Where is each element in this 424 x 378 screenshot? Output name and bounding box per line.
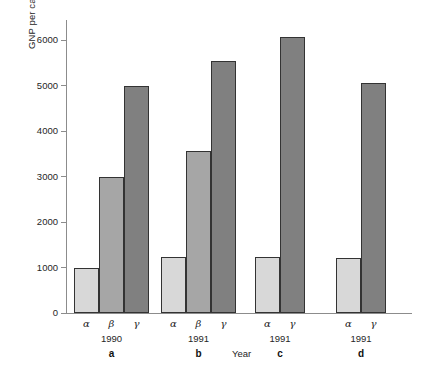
bar[interactable] [211,61,236,313]
bar-chart-figure: GNP per capita (U.S. dollars) 0100020003… [0,0,424,378]
panel-label: a [92,348,132,359]
bar[interactable] [336,258,361,313]
bar[interactable] [361,83,386,313]
category-label: γ [214,318,234,329]
bar[interactable] [99,177,124,313]
panel-label: b [179,348,219,359]
category-label: γ [364,318,384,329]
category-label: γ [127,318,147,329]
category-label: α [339,318,359,329]
year-label: 1991 [255,333,305,344]
category-label: β [189,318,209,329]
year-label: 1991 [336,333,386,344]
category-label: α [258,318,278,329]
category-label: β [102,318,122,329]
panel-label: c [260,348,300,359]
x-axis-title: Year [232,348,251,359]
bar[interactable] [280,37,305,313]
bar[interactable] [186,151,211,313]
bar[interactable] [255,257,280,313]
category-label: α [77,318,97,329]
category-label: γ [283,318,303,329]
category-label: α [164,318,184,329]
plot-area [0,0,424,378]
year-label: 1990 [87,333,137,344]
bar[interactable] [161,257,186,313]
year-label: 1991 [174,333,224,344]
bar[interactable] [74,268,99,314]
panel-label: d [341,348,381,359]
bar[interactable] [124,86,149,313]
